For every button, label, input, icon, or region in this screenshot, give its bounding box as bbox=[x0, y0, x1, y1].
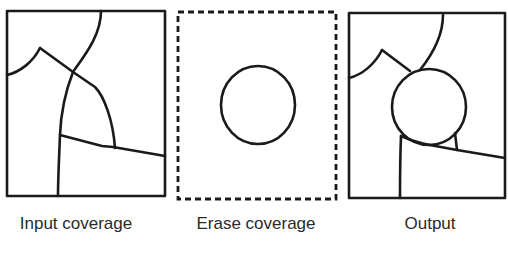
output-polygon-boundary bbox=[430, 145, 505, 158]
input-coverage-panel bbox=[7, 11, 165, 196]
input-coverage-caption: Input coverage bbox=[20, 214, 132, 234]
output-polygon-boundary bbox=[400, 136, 401, 198]
output-polygon-boundary bbox=[349, 50, 382, 78]
input-polygon-boundary bbox=[60, 135, 165, 156]
input-polygon-boundary bbox=[40, 48, 115, 148]
output-panel bbox=[349, 13, 505, 198]
output-erase-circle bbox=[392, 69, 466, 145]
erase-coverage-frame bbox=[178, 12, 336, 199]
input-coverage-frame bbox=[7, 11, 165, 196]
erase-coverage-panel bbox=[178, 12, 336, 199]
output-caption: Output bbox=[404, 214, 455, 234]
output-frame bbox=[349, 13, 505, 198]
input-polygon-boundary bbox=[58, 11, 101, 196]
input-polygon-boundary bbox=[7, 48, 40, 75]
output-polygon-boundary bbox=[420, 15, 443, 70]
output-polygon-boundary bbox=[382, 50, 410, 71]
erase-coverage-caption: Erase coverage bbox=[196, 214, 315, 234]
erase-circle bbox=[221, 66, 295, 144]
